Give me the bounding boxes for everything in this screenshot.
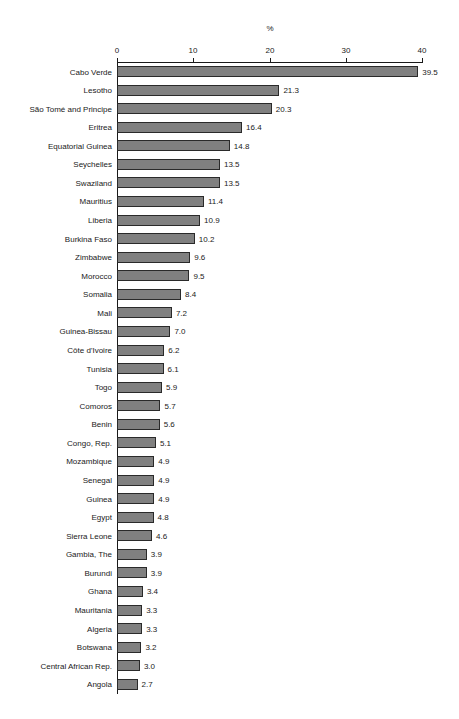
bar [117,270,189,281]
x-axis-line [117,62,423,63]
category-label: Swaziland [76,178,112,189]
category-label: São Tomé and Principe [29,104,112,115]
category-label: Burundi [84,568,112,579]
category-label: Central African Rep. [40,661,112,672]
category-label: Benin [92,419,112,430]
value-label: 5.7 [164,401,175,412]
value-label: 5.6 [164,419,175,430]
category-label: Mauritania [75,605,112,616]
category-label: Morocco [81,271,112,282]
bar [117,177,220,188]
axis-title-percent: % [266,24,273,33]
value-label: 20.3 [276,104,292,115]
category-label: Côte d'Ivoire [67,345,112,356]
x-axis-tick-label: 20 [266,46,275,55]
category-label: Comoros [80,401,112,412]
value-label: 4.8 [158,512,169,523]
category-label: Tunisia [87,364,113,375]
bar [117,549,147,560]
bar [117,122,242,133]
bar [117,289,181,300]
bar [117,623,142,634]
bar [117,512,154,523]
bar [117,605,142,616]
bar [117,140,230,151]
bar [117,326,170,337]
category-label: Egypt [92,512,112,523]
value-label: 13.5 [224,178,240,189]
bar [117,252,190,263]
x-axis-tick [117,58,118,62]
value-label: 13.5 [224,159,240,170]
bar [117,233,195,244]
category-label: Burkina Faso [65,234,112,245]
category-label: Congo, Rep. [67,438,112,449]
x-axis-tick [193,58,194,62]
bar [117,103,272,114]
value-label: 11.4 [208,196,223,207]
x-axis-tick [270,58,271,62]
category-label: Somalia [83,289,112,300]
bar [117,215,200,226]
value-label: 4.9 [158,456,169,467]
value-label: 5.1 [160,438,171,449]
category-label: Seychelles [73,159,112,170]
category-label: Lesotho [84,85,112,96]
bar [117,66,418,77]
x-axis-tick-label: 40 [418,46,427,55]
category-label: Equatorial Guinea [48,141,112,152]
y-axis-baseline [117,62,118,694]
value-label: 8.4 [185,289,196,300]
value-label: 4.6 [156,531,167,542]
x-axis-tick-label: 0 [115,46,119,55]
value-label: 3.4 [147,586,158,597]
category-label: Guinea-Bissau [60,326,112,337]
bar [117,382,162,393]
bar [117,437,156,448]
value-label: 6.2 [168,345,179,356]
bar [117,196,204,207]
bar [117,400,160,411]
category-label: Mali [97,308,112,319]
value-label: 14.8 [234,141,250,152]
value-label: 7.2 [176,308,187,319]
bar [117,642,141,653]
value-label: 16.4 [246,122,262,133]
value-label: 39.5 [422,67,438,78]
value-label: 2.7 [142,679,153,690]
value-label: 3.9 [151,568,162,579]
category-label: Ghana [88,586,112,597]
bar [117,159,220,170]
category-label: Cabo Verde [70,67,112,78]
x-axis-tick [422,58,423,62]
x-axis-tick-label: 30 [342,46,351,55]
value-label: 4.9 [158,494,169,505]
category-label: Botswana [77,642,112,653]
x-axis-tick [346,58,347,62]
bar [117,363,164,374]
value-label: 10.9 [204,215,220,226]
bar-chart: % 010203040 Cabo Verde39.5Lesotho21.3São… [0,0,459,719]
value-label: 6.1 [168,364,179,375]
value-label: 3.0 [144,661,155,672]
category-label: Mozambique [66,456,112,467]
bar [117,85,279,96]
value-label: 3.3 [146,624,157,635]
bar [117,567,147,578]
category-label: Mauritius [80,196,112,207]
bar [117,586,143,597]
value-label: 5.9 [166,382,177,393]
category-label: Senegal [83,475,112,486]
bar [117,475,154,486]
category-label: Zimbabwe [75,252,112,263]
category-label: Gambia, The [66,549,112,560]
bar [117,493,154,504]
value-label: 3.2 [145,642,156,653]
bar [117,456,154,467]
x-axis-tick-label: 10 [189,46,198,55]
value-label: 10.2 [199,234,215,245]
category-label: Algeria [87,624,112,635]
category-label: Sierra Leone [66,531,112,542]
bar [117,679,138,690]
category-label: Togo [95,382,112,393]
